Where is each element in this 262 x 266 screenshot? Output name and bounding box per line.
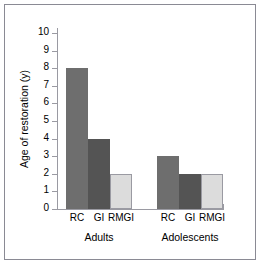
x-axis-category-label: RMGI bbox=[101, 212, 141, 223]
bar-adults-rmgi bbox=[110, 174, 132, 209]
figure-frame: Age of restoration (y) 109876543210 RCGI… bbox=[4, 4, 256, 260]
bar-adolescents-rmgi bbox=[201, 174, 223, 209]
x-axis-category-label: RMGI bbox=[192, 212, 232, 223]
bar-chart: Age of restoration (y) 109876543210 RCGI… bbox=[5, 5, 257, 261]
x-axis-group-label: Adolescents bbox=[137, 231, 243, 243]
bar-adolescents-gi bbox=[179, 174, 201, 209]
bar-adults-rc bbox=[66, 68, 88, 209]
bar-adolescents-rc bbox=[157, 156, 179, 209]
bar-adults-gi bbox=[88, 139, 110, 209]
